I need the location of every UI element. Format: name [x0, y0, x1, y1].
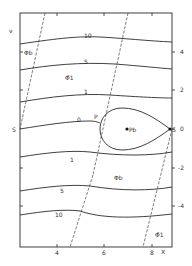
right-tick-label-2: 2	[180, 86, 184, 93]
contour-label-5-bottom: 5	[60, 187, 64, 194]
label-s-right: S	[172, 126, 176, 133]
contour-label-1-top: 1	[84, 88, 88, 95]
label-phi1-bar-bottom: Φ̄1	[155, 231, 164, 238]
right-tick-label-0: 0	[180, 125, 184, 132]
contour-label-1-bottom: 1	[70, 156, 74, 163]
contour-label-10-top: 10	[84, 32, 92, 39]
label-p: P	[94, 113, 98, 120]
x-axis-label: X	[161, 248, 165, 255]
right-tick-label-4: 4	[180, 48, 184, 55]
label-phi-b-lower: Φb	[114, 174, 123, 181]
label-phi-b-top: Φb	[24, 49, 33, 56]
bottom-tick-label-8: 8	[150, 249, 154, 256]
bottom-tick-label-6: 6	[102, 249, 106, 256]
contour-10-bottom	[20, 210, 172, 217]
contour-5-bottom	[20, 185, 172, 191]
right-tick-label-neg2: -2	[178, 164, 184, 171]
y-axis-label: v	[9, 27, 13, 34]
contour-label-10-bottom: 10	[55, 211, 63, 218]
contour-diagram: 10 5 1 0 1 5 10 Φb Φ̄1 P Pb S S Φb Φ̄1 v…	[0, 0, 192, 266]
bottom-tick-label-4: 4	[55, 249, 59, 256]
contour-1-top	[20, 94, 172, 102]
contour-label-5-top: 5	[84, 58, 88, 65]
label-phi1-bar-top: Φ̄1	[65, 74, 74, 81]
contour-5-top	[20, 63, 172, 70]
contour-lines	[20, 37, 172, 217]
label-pb: Pb	[129, 126, 137, 133]
right-tick-label-neg4: -4	[178, 202, 184, 209]
contour-label-0: 0	[77, 116, 81, 123]
contour-0-sep	[20, 121, 100, 129]
contour-10-top	[20, 37, 172, 44]
label-s-left: S	[12, 126, 16, 133]
contour-1-bottom	[20, 151, 172, 157]
